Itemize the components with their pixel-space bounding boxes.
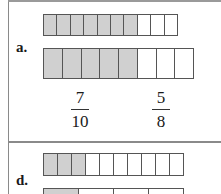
unshaded-cell [128,154,142,175]
shaded-cell [44,154,58,175]
unshaded-cell [165,15,177,35]
denominator: 8 [146,112,176,131]
unshaded-cell [142,154,156,175]
shaded-cell [82,49,101,78]
shaded-cell [44,15,57,35]
fraction-line [152,109,170,110]
unshaded-cell [149,189,183,194]
unshaded-cell [114,189,149,194]
section-divider [8,141,221,143]
problem-label-d: d. [16,172,28,189]
shaded-cell [111,15,124,35]
shaded-cell [63,49,82,78]
fraction-7-10: 7 10 [65,88,95,131]
shaded-cell [72,154,86,175]
shaded-cell [124,15,137,35]
shaded-cell [84,15,97,35]
unshaded-cell [151,15,164,35]
shaded-cell [58,154,72,175]
unshaded-cell [175,49,193,78]
unshaded-cell [114,154,128,175]
fraction-line [71,109,89,110]
fraction-bar-tenths [43,14,178,36]
shaded-cell [57,15,70,35]
fraction-bar-fourths [43,188,184,194]
denominator: 10 [65,112,95,131]
numerator: 7 [65,88,95,107]
problem-label-a: a. [16,39,27,56]
shaded-cell [71,15,84,35]
unshaded-cell [170,154,183,175]
unshaded-cell [157,49,176,78]
numerator: 5 [146,88,176,107]
unshaded-cell [156,154,170,175]
shaded-cell [98,15,111,35]
unshaded-cell [79,189,114,194]
unshaded-cell [138,15,151,35]
shaded-cell [44,49,63,78]
fraction-bar-eighths [43,48,194,79]
frame-top-border [8,0,221,2]
frame-left-border [8,0,9,194]
unshaded-cell [86,154,100,175]
shaded-cell [119,49,138,78]
fraction-bar-tenths [43,153,184,176]
shaded-cell [44,189,79,194]
unshaded-cell [138,49,157,78]
shaded-cell [100,49,119,78]
unshaded-cell [100,154,114,175]
fraction-5-8: 5 8 [146,88,176,131]
